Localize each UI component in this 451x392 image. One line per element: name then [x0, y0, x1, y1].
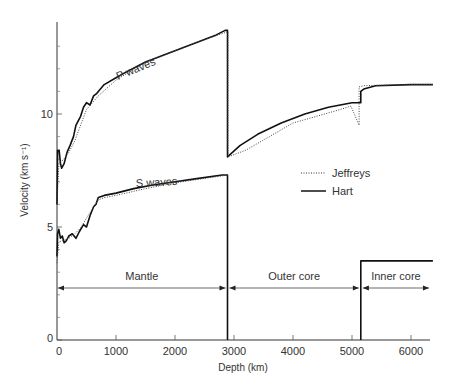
axes: 0100020003000400050006000 0510 Depth (km…: [19, 22, 430, 373]
region-label: Mantle: [125, 270, 158, 282]
x-tick-label: 3000: [222, 345, 246, 357]
p-waves-label: P waves: [114, 55, 157, 82]
region-label: Outer core: [268, 270, 320, 282]
x-tick-label: 1000: [104, 345, 128, 357]
region-label: Inner core: [371, 270, 421, 282]
arrowhead-icon: [423, 286, 429, 291]
s-waves-label: S waves: [135, 175, 178, 189]
x-tick-label: 5000: [340, 345, 364, 357]
x-axis-title: Depth (km): [218, 362, 267, 373]
annotations: P waves S waves MantleOuter coreInner co…: [58, 55, 429, 290]
y-axis-title: Velocity (km s⁻¹): [19, 143, 30, 216]
arrowhead-icon: [58, 286, 64, 291]
jeffreys-p-waves-line: [57, 32, 433, 205]
x-ticks: 0100020003000400050006000: [56, 335, 423, 357]
arrowhead-icon: [230, 286, 236, 291]
region-arrows: MantleOuter coreInner core: [58, 270, 429, 291]
hart-s-waves-line: [57, 175, 228, 340]
y-tick-label: 5: [47, 221, 53, 233]
series-group: [57, 30, 433, 340]
legend-hart-label: Hart: [332, 185, 353, 197]
hart-p-waves-line: [57, 30, 433, 204]
arrowhead-icon: [363, 286, 369, 291]
arrowhead-icon: [353, 286, 359, 291]
x-tick-label: 2000: [163, 345, 187, 357]
y-tick-label: 10: [41, 108, 53, 120]
arrowhead-icon: [220, 286, 226, 291]
legend: Jeffreys Hart: [301, 167, 371, 197]
y-ticks: 0510: [41, 46, 62, 344]
x-tick-label: 4000: [281, 345, 305, 357]
y-tick-label: 0: [47, 332, 53, 344]
chart-canvas: 0100020003000400050006000 0510 Depth (km…: [0, 0, 451, 392]
x-tick-label: 6000: [399, 345, 423, 357]
legend-jeffreys-label: Jeffreys: [332, 167, 371, 179]
x-tick-label: 0: [56, 345, 62, 357]
